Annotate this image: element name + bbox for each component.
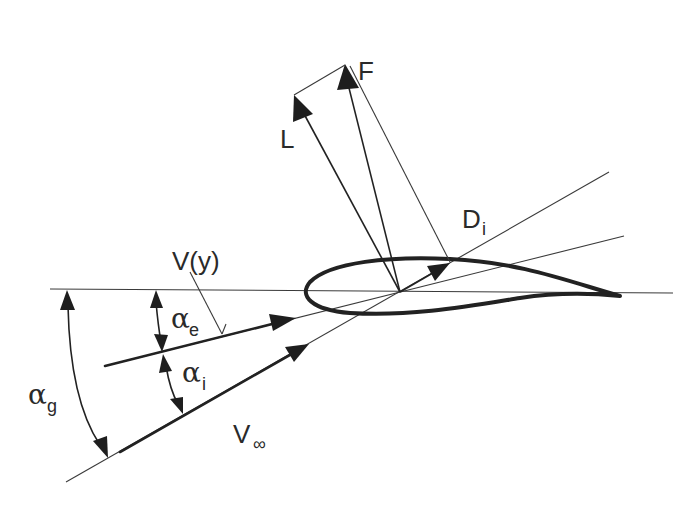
freestream-vector: [120, 352, 295, 452]
induced-drag-label: D: [462, 204, 481, 234]
alpha-i-arrowhead-top: [159, 354, 172, 373]
effective-velocity-arrowhead: [269, 314, 296, 331]
lift-label: L: [280, 124, 294, 154]
alpha-i-subscript: i: [202, 374, 206, 394]
freestream-arrowhead: [285, 344, 309, 362]
alpha-i-arrowhead-bottom: [170, 397, 183, 414]
alpha-e-subscript: e: [189, 320, 199, 340]
induced-drag-arrowhead: [427, 263, 450, 281]
force-construction-line-top: [294, 65, 345, 95]
freestream-subscript: ∞: [253, 434, 266, 454]
force-construction-line-right: [350, 66, 450, 262]
induced-drag-subscript: i: [482, 219, 486, 239]
downwash-tick: [222, 324, 226, 334]
alpha-g-arrowhead-top: [60, 290, 75, 310]
alpha-g-label: α: [28, 378, 47, 411]
freestream-label: V: [233, 419, 251, 449]
alpha-e-label: α: [171, 302, 190, 335]
downwash-label: V(y): [172, 246, 220, 276]
alpha-g-arc: [68, 306, 100, 445]
alpha-i-label: α: [182, 356, 201, 389]
alpha-e-arrowhead-bottom: [154, 334, 168, 352]
airfoil: [306, 258, 620, 314]
force-label: F: [358, 56, 374, 86]
alpha-g-arrowhead-bottom: [93, 436, 108, 458]
alpha-e-arrowhead-top: [150, 290, 163, 308]
lift-arrowhead: [293, 95, 313, 122]
airfoil-diagram: L F D i V(y) V ∞ α e α i α g: [0, 0, 691, 509]
alpha-g-subscript: g: [47, 396, 57, 416]
